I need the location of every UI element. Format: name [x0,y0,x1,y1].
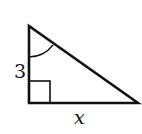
triangle [29,26,138,103]
right-angle-mark [29,81,50,103]
angle-arc-mark [29,45,53,57]
right-triangle-diagram: 3 x [0,0,142,134]
horizontal-leg-label: x [74,106,85,128]
vertical-leg-label: 3 [14,60,26,82]
